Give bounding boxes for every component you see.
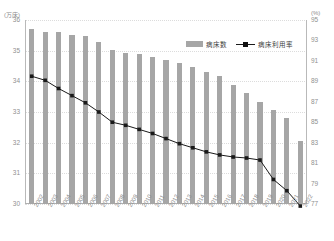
chart-container: (万床) (%) 36353433323130 9593918987858381… — [0, 0, 334, 241]
left-axis-tick: 36 — [13, 17, 20, 24]
line-marker — [204, 150, 208, 154]
legend-item-bed-count: 病床数 — [186, 39, 227, 49]
left-axis-tick: 33 — [13, 109, 20, 116]
right-axis-tick: 85 — [311, 119, 318, 126]
line-marker — [178, 142, 182, 146]
x-axis-tick-labels: 2002200320042005200620072008200920102011… — [25, 205, 307, 241]
line-marker — [164, 137, 168, 141]
right-axis-tick: 81 — [311, 160, 318, 167]
line-marker — [97, 110, 101, 114]
chart-legend: 病床数 病床利用率 — [186, 39, 293, 49]
left-axis-tick: 30 — [13, 201, 20, 208]
left-axis-tick: 32 — [13, 140, 20, 147]
line-marker — [285, 189, 289, 193]
legend-bar-swatch-icon — [186, 41, 203, 47]
left-axis-tick: 35 — [13, 48, 20, 55]
line-marker — [57, 87, 61, 91]
legend-label-bed-utilization-rate: 病床利用率 — [258, 39, 293, 49]
legend-item-bed-utilization-rate: 病床利用率 — [236, 39, 293, 49]
line-marker — [84, 101, 88, 105]
right-axis-tick-labels: 95939189878583817977 — [309, 20, 333, 204]
legend-line-swatch-icon — [236, 41, 255, 47]
line-marker — [30, 74, 34, 78]
line-marker — [272, 178, 276, 182]
right-axis-tick: 77 — [311, 201, 318, 208]
line-marker — [218, 153, 222, 157]
line-marker — [43, 79, 47, 83]
legend-label-bed-count: 病床数 — [206, 39, 227, 49]
right-axis-tick: 79 — [311, 181, 318, 188]
line-marker — [191, 146, 195, 150]
line-marker — [245, 156, 249, 160]
line-marker — [258, 158, 262, 162]
line-marker — [110, 120, 114, 124]
right-axis-tick: 91 — [311, 58, 318, 65]
line-marker — [151, 132, 155, 136]
left-axis-tick: 31 — [13, 170, 20, 177]
line-marker — [124, 123, 128, 127]
right-axis-tick: 93 — [311, 37, 318, 44]
line-marker — [137, 128, 141, 132]
left-axis-tick: 34 — [13, 78, 20, 85]
line-marker — [70, 94, 74, 98]
line-marker — [231, 155, 235, 159]
right-axis-tick: 87 — [311, 99, 318, 106]
right-axis-tick: 95 — [311, 17, 318, 24]
left-axis-tick-labels: 36353433323130 — [0, 20, 22, 204]
right-axis-tick: 83 — [311, 140, 318, 147]
right-axis-tick: 89 — [311, 78, 318, 85]
